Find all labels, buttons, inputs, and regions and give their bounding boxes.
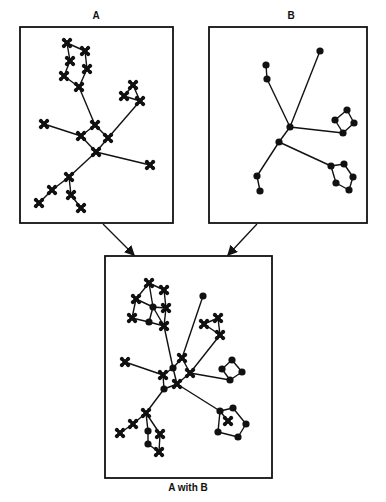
dot-node-icon — [226, 376, 233, 383]
dot-node-icon — [218, 365, 225, 372]
merge-arrow — [228, 224, 257, 255]
dot-node-icon — [331, 116, 338, 123]
edge — [96, 152, 150, 165]
cross-node-icon — [168, 375, 186, 393]
cross-node-icon — [58, 34, 76, 52]
cross-node-icon — [61, 52, 79, 70]
panel-label-a: A — [86, 10, 106, 21]
dot-node-icon — [238, 368, 245, 375]
cross-node-icon — [211, 326, 229, 344]
edge — [190, 335, 220, 373]
cross-node-icon — [127, 290, 145, 308]
edge — [190, 373, 230, 380]
dot-node-icon — [169, 364, 176, 371]
merge-arrow — [103, 224, 134, 255]
nodes — [111, 274, 250, 461]
dot-node-icon — [149, 303, 156, 310]
dot-node-icon — [144, 427, 151, 434]
dot-node-icon — [350, 119, 357, 126]
nodes — [253, 47, 357, 194]
cross-node-icon — [209, 309, 227, 327]
panel-label-b: B — [281, 10, 301, 21]
dot-node-icon — [339, 129, 346, 136]
dot-node-icon — [214, 428, 221, 435]
dot-node-icon — [253, 172, 260, 179]
cross-node-icon — [70, 78, 88, 96]
cross-node-icon — [155, 281, 173, 299]
dot-node-icon — [275, 138, 282, 145]
edges — [257, 51, 354, 191]
panel-a — [20, 27, 173, 223]
cross-node-icon — [72, 199, 90, 217]
panel-b — [209, 27, 367, 223]
edge — [44, 124, 81, 136]
dot-node-icon — [286, 123, 293, 130]
dot-node-icon — [234, 433, 241, 440]
dot-node-icon — [327, 162, 334, 169]
edge — [125, 362, 163, 375]
dot-node-icon — [144, 440, 151, 447]
dot-node-icon — [343, 106, 350, 113]
edge — [279, 142, 331, 166]
cross-node-icon — [155, 317, 173, 335]
dot-node-icon — [262, 61, 269, 68]
panel-label-a-with-b: A with B — [148, 482, 228, 493]
edge — [79, 87, 95, 125]
cross-node-icon — [78, 60, 96, 78]
cross-node-icon — [55, 67, 73, 85]
dot-node-icon — [316, 47, 323, 54]
cross-node-icon — [140, 274, 158, 292]
panel-ab — [105, 256, 272, 478]
dot-node-icon — [340, 160, 347, 167]
cross-node-icon — [219, 412, 237, 430]
dot-node-icon — [349, 173, 356, 180]
dot-node-icon — [332, 179, 339, 186]
dot-node-icon — [256, 187, 263, 194]
cross-node-icon — [124, 415, 142, 433]
panel-frame — [105, 256, 272, 478]
cross-node-icon — [137, 404, 155, 422]
dot-node-icon — [242, 420, 249, 427]
edge — [177, 384, 220, 411]
cross-node-icon — [62, 186, 80, 204]
dot-node-icon — [216, 407, 223, 414]
cross-node-icon — [195, 315, 213, 333]
dot-node-icon — [263, 75, 270, 82]
cross-node-icon — [35, 115, 53, 133]
edge — [290, 127, 343, 133]
cross-node-icon — [116, 353, 134, 371]
edges — [120, 283, 246, 452]
edge — [108, 101, 140, 138]
diagram-canvas — [0, 0, 386, 502]
dot-node-icon — [229, 404, 236, 411]
dot-node-icon — [145, 318, 152, 325]
dot-node-icon — [160, 385, 167, 392]
dot-node-icon — [228, 356, 235, 363]
arrows-layer — [103, 224, 257, 255]
panels-layer — [20, 27, 367, 478]
edge — [164, 326, 173, 368]
edge — [257, 142, 279, 176]
cross-node-icon — [76, 42, 94, 60]
dot-node-icon — [199, 292, 206, 299]
cross-node-icon — [181, 364, 199, 382]
dot-node-icon — [345, 186, 352, 193]
edge — [290, 51, 320, 127]
cross-node-icon — [141, 156, 159, 174]
cross-node-icon — [123, 309, 141, 327]
edge — [267, 79, 290, 127]
cross-node-icon — [111, 424, 129, 442]
